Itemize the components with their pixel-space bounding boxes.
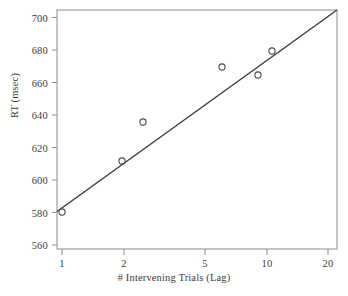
x-tick-label-10: 10 xyxy=(262,258,273,269)
regression-line xyxy=(57,10,337,212)
data-point xyxy=(119,158,125,164)
y-tick-label-600: 600 xyxy=(14,175,48,186)
x-axis-ticks xyxy=(62,249,328,255)
y-axis-title: RT (msec) xyxy=(9,46,20,146)
x-tick-label-2: 2 xyxy=(121,258,126,269)
plot-frame xyxy=(57,10,337,249)
chart-figure: 560 580 600 620 640 660 680 700 1 2 5 10… xyxy=(0,0,348,296)
x-tick-label-5: 5 xyxy=(202,258,207,269)
y-tick-label-700: 700 xyxy=(14,12,48,23)
y-tick-label-580: 580 xyxy=(14,207,48,218)
data-point xyxy=(219,64,225,70)
y-tick-label-560: 560 xyxy=(14,240,48,251)
data-point xyxy=(269,48,275,54)
x-tick-label-1: 1 xyxy=(59,258,64,269)
data-point xyxy=(255,72,261,78)
y-axis-ticks xyxy=(52,18,57,246)
x-tick-label-20: 20 xyxy=(323,258,334,269)
scatter-plot-canvas xyxy=(0,0,348,296)
x-axis-title: # Intervening Trials (Lag) xyxy=(0,272,348,283)
data-point xyxy=(140,119,146,125)
data-point xyxy=(59,209,65,215)
